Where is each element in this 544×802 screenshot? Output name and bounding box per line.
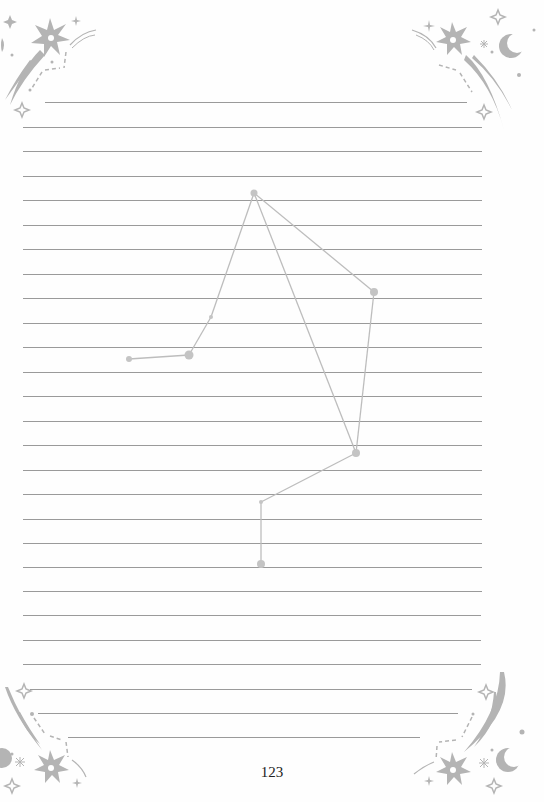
star-icon: [259, 500, 263, 504]
shooting-star-icon: [0, 0, 140, 140]
constellation-edge: [356, 292, 374, 453]
star-icon: [370, 288, 378, 296]
constellation-edge: [211, 193, 254, 317]
constellation-edge: [189, 317, 211, 355]
constellation-edge: [254, 193, 374, 292]
star-icon: [209, 315, 213, 319]
star-icon: [251, 190, 258, 197]
constellation-edges: [129, 193, 374, 564]
notebook-page: 123: [0, 0, 544, 802]
star-icon: [257, 560, 265, 568]
star-icon: [185, 351, 194, 360]
shooting-star-icon: [0, 662, 140, 802]
star-icon: [126, 356, 132, 362]
constellation-edge: [129, 355, 189, 359]
star-icon: [352, 449, 360, 457]
constellation-stars: [126, 190, 378, 569]
shooting-star-moon-icon: [404, 662, 544, 802]
constellation-edge: [261, 453, 356, 502]
constellation-edge: [254, 193, 356, 453]
page-number: 123: [0, 764, 544, 781]
shooting-star-moon-icon: [404, 0, 544, 140]
